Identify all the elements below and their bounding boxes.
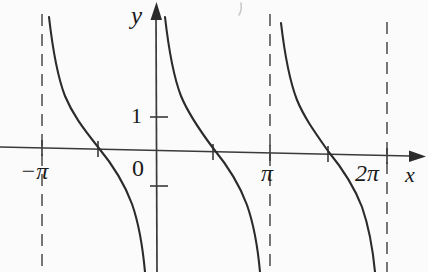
stray-pen-mark — [239, 3, 241, 15]
x-tick-label-neg-pi: −π — [20, 158, 48, 185]
x-axis-line — [0, 147, 410, 156]
plot-canvas — [0, 0, 428, 272]
x-tick-label-pi: π — [261, 160, 273, 187]
y-axis-group — [150, 2, 168, 272]
x-axis-label: x — [405, 162, 415, 188]
y-tick-label-one: 1 — [131, 103, 142, 129]
cot-branch-neg-pi-to-zero — [49, 17, 145, 272]
cotangent-graph-figure: y x −π π 2π 1 0 — [0, 0, 428, 272]
x-tick-label-two-pi: 2π — [355, 160, 379, 187]
y-axis-line — [156, 16, 157, 272]
origin-label: 0 — [132, 155, 144, 182]
x-axis-arrowhead — [409, 151, 426, 163]
y-axis-label: y — [131, 2, 142, 30]
y-axis-arrowhead — [151, 2, 163, 20]
